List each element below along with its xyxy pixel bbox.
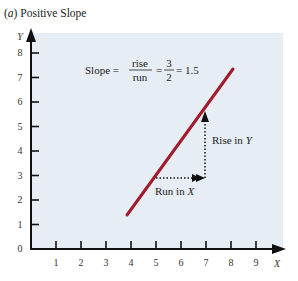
svg-text:5: 5 bbox=[18, 121, 23, 132]
svg-text:3: 3 bbox=[18, 170, 23, 181]
svg-text:7: 7 bbox=[18, 72, 23, 83]
svg-text:X: X bbox=[273, 258, 281, 269]
svg-text:rise: rise bbox=[132, 57, 148, 69]
svg-text:9: 9 bbox=[254, 257, 259, 268]
svg-text:run: run bbox=[133, 71, 148, 83]
x-tick-labels: 1 2 3 4 5 6 7 8 9 X bbox=[54, 257, 281, 269]
svg-text:Y: Y bbox=[17, 31, 24, 42]
svg-text:4: 4 bbox=[18, 145, 23, 156]
run-label: Run in X bbox=[155, 185, 195, 197]
rise-label: Rise in Y bbox=[212, 134, 254, 146]
svg-text:2: 2 bbox=[18, 194, 23, 205]
svg-text:6: 6 bbox=[18, 96, 23, 107]
svg-text:2: 2 bbox=[166, 71, 172, 83]
svg-text:1: 1 bbox=[54, 257, 59, 268]
svg-text:= 1.5: = 1.5 bbox=[176, 64, 199, 76]
svg-text:7: 7 bbox=[204, 257, 209, 268]
svg-text:Slope =: Slope = bbox=[85, 64, 119, 76]
chart: 0 1 2 3 4 5 6 7 8 Y 1 2 3 4 5 6 7 8 9 X bbox=[0, 0, 298, 281]
svg-text:3: 3 bbox=[104, 257, 109, 268]
svg-text:4: 4 bbox=[129, 257, 134, 268]
svg-text:0: 0 bbox=[18, 243, 23, 254]
svg-text:8: 8 bbox=[18, 47, 23, 58]
y-tick-labels: 0 1 2 3 4 5 6 7 8 Y bbox=[17, 31, 24, 254]
svg-text:6: 6 bbox=[179, 257, 184, 268]
svg-text:1: 1 bbox=[18, 219, 23, 230]
svg-text:=: = bbox=[156, 64, 162, 76]
svg-text:2: 2 bbox=[79, 257, 84, 268]
svg-text:3: 3 bbox=[166, 57, 172, 69]
svg-text:8: 8 bbox=[229, 257, 234, 268]
svg-text:5: 5 bbox=[154, 257, 159, 268]
